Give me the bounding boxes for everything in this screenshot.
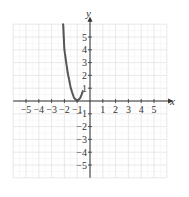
svg-text:3: 3: [82, 57, 87, 68]
y-axis-label: y: [85, 7, 91, 19]
x-axis-label: x: [169, 95, 175, 107]
svg-text:−2: −2: [76, 121, 87, 132]
svg-text:−2: −2: [59, 104, 70, 115]
svg-text:−5: −5: [21, 104, 32, 115]
svg-text:−4: −4: [33, 104, 44, 115]
svg-text:−1: −1: [76, 108, 87, 119]
svg-text:1: 1: [100, 104, 105, 115]
svg-text:−3: −3: [76, 134, 87, 145]
graph: −5−4−3−2−11234554321−1−2−3−4−5 x y: [0, 0, 189, 197]
axes: [13, 17, 173, 178]
svg-text:2: 2: [113, 104, 118, 115]
svg-text:4: 4: [139, 104, 144, 115]
svg-text:2: 2: [82, 70, 87, 81]
svg-text:−3: −3: [46, 104, 57, 115]
svg-text:5: 5: [152, 104, 157, 115]
svg-text:3: 3: [126, 104, 131, 115]
svg-text:4: 4: [82, 44, 87, 55]
svg-text:−4: −4: [76, 147, 87, 158]
svg-text:5: 5: [82, 32, 87, 43]
svg-text:−5: −5: [76, 160, 87, 171]
